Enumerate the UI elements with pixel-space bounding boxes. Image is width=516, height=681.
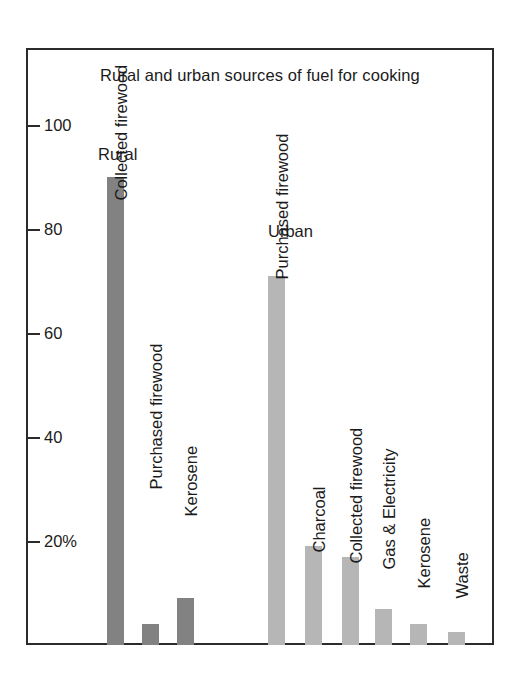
bar-label-rural-collected-firewood: Collected firewood	[113, 65, 130, 201]
bar-rural-collected-firewood[interactable]	[107, 177, 124, 645]
bar-urban-kerosene[interactable]	[410, 624, 427, 645]
bar-rural-purchased-firewood[interactable]	[142, 624, 159, 645]
bar-label-urban-kerosene: Kerosene	[416, 518, 433, 589]
bar-label-urban-collected-firewood: Collected firewood	[348, 428, 365, 564]
bar-rural-kerosene[interactable]	[177, 598, 194, 645]
plot-area: Rural Urban Collected firewood Purchased…	[28, 50, 492, 645]
bar-label-urban-charcoal: Charcoal	[311, 486, 328, 552]
bar-urban-charcoal[interactable]	[305, 546, 322, 645]
chart-figure: Rural and urban sources of fuel for cook…	[0, 0, 516, 681]
bar-urban-gas-electricity[interactable]	[375, 609, 392, 645]
bar-label-urban-purchased-firewood: Purchased firewood	[274, 134, 291, 280]
bar-urban-collected-firewood[interactable]	[342, 557, 359, 645]
bar-urban-purchased-firewood[interactable]	[268, 276, 285, 645]
bar-label-urban-waste: Waste	[454, 552, 471, 598]
bar-label-rural-kerosene: Kerosene	[183, 446, 200, 517]
bar-label-rural-purchased-firewood: Purchased firewood	[148, 344, 165, 490]
bar-urban-waste[interactable]	[448, 632, 465, 645]
bar-label-urban-gas-electricity: Gas & Electricity	[381, 448, 398, 569]
